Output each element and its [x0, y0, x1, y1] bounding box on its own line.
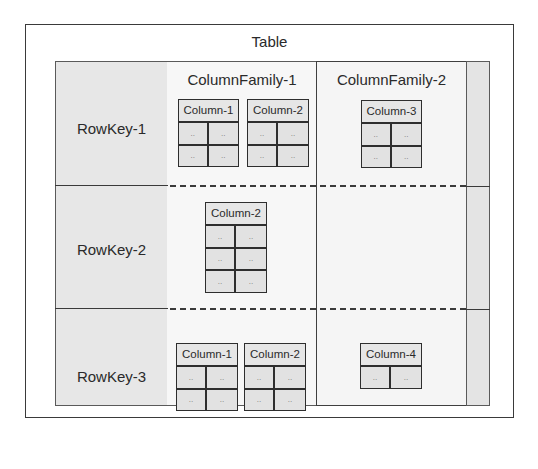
row1-column-3: Column-3 .. .. .. ..: [361, 100, 422, 168]
row-divider-2-dashed: [170, 308, 466, 310]
cell: ..: [245, 390, 275, 411]
cell: ..: [206, 271, 236, 292]
cell: ..: [236, 271, 266, 292]
column-header: Column-3: [362, 101, 421, 124]
cell: ..: [275, 367, 305, 390]
cell: ..: [209, 146, 239, 167]
cell: ..: [278, 123, 308, 146]
cell: ..: [236, 226, 266, 249]
column-cells: .. .. .. ..: [245, 367, 305, 410]
cell: ..: [209, 123, 239, 146]
cell: ..: [392, 147, 422, 168]
column-family-1-title: ColumnFamily-1: [167, 71, 317, 88]
rowkey-column: [55, 61, 168, 406]
row1-column-2: Column-2 .. .. .. ..: [247, 99, 309, 167]
cell: ..: [179, 146, 209, 167]
right-edge-strip: [466, 61, 490, 406]
cell: ..: [177, 390, 207, 411]
column-header: Column-1: [179, 100, 238, 123]
cell: ..: [206, 226, 236, 249]
row-divider-1-dashed: [170, 185, 466, 187]
rowkey-3-label: RowKey-3: [55, 368, 168, 385]
cell: ..: [207, 390, 237, 411]
column-cells: .. .. .. ..: [177, 367, 237, 410]
column-cells: .. .. .. ..: [179, 123, 238, 166]
cell: ..: [275, 390, 305, 411]
column-header: Column-4: [361, 344, 421, 367]
cell: ..: [206, 249, 236, 272]
rowkey-2-label: RowKey-2: [55, 241, 168, 258]
cell: ..: [207, 367, 237, 390]
column-cells: .. .. .. ..: [248, 123, 308, 166]
column-cells: .. .. .. .. .. ..: [206, 226, 266, 292]
row-divider-2-strip: [466, 309, 490, 310]
row-divider-1-solid: [55, 185, 168, 186]
cell: ..: [177, 367, 207, 390]
column-cells: .. .. .. ..: [362, 124, 421, 167]
table-title: Table: [25, 33, 514, 50]
cell: ..: [362, 124, 392, 147]
cell: ..: [392, 124, 422, 147]
column-header: Column-2: [248, 100, 308, 123]
column-family-2-title: ColumnFamily-2: [316, 71, 467, 88]
cell: ..: [278, 146, 308, 167]
cell: ..: [248, 146, 278, 167]
cell: ..: [236, 249, 266, 272]
row3-column-1: Column-1 .. .. .. ..: [176, 343, 238, 411]
column-cells: .. ..: [361, 367, 421, 388]
column-header: Column-2: [206, 203, 266, 226]
row-divider-1-strip: [466, 186, 490, 187]
cell: ..: [245, 367, 275, 390]
row3-column-4: Column-4 .. ..: [360, 343, 422, 389]
row2-column-2: Column-2 .. .. .. .. .. ..: [205, 202, 267, 293]
row3-column-2: Column-2 .. .. .. ..: [244, 343, 306, 411]
cell: ..: [361, 367, 391, 388]
cell: ..: [179, 123, 209, 146]
column-header: Column-1: [177, 344, 237, 367]
cell: ..: [391, 367, 421, 388]
row1-column-1: Column-1 .. .. .. ..: [178, 99, 239, 167]
cell: ..: [362, 147, 392, 168]
column-header: Column-2: [245, 344, 305, 367]
row-divider-2-solid: [55, 308, 168, 309]
rowkey-1-label: RowKey-1: [55, 120, 168, 137]
cell: ..: [248, 123, 278, 146]
